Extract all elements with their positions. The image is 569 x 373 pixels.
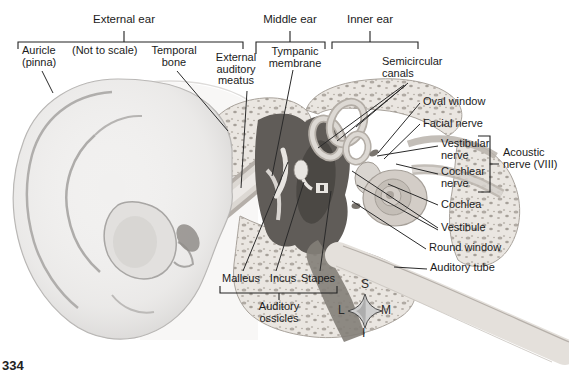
leader-oval-window <box>378 103 420 153</box>
leader-lines <box>42 70 438 271</box>
label-auditory-tube: Auditory tube <box>430 262 495 274</box>
label-acoustic-nerve: Acoustic nerve (VIII) <box>503 147 557 170</box>
leader-semicircular-canals <box>318 83 408 148</box>
leader-vestibular-nerve <box>377 146 438 156</box>
label-auditory-ossicles: Auditory ossicles <box>239 301 319 324</box>
compass-l-label: L <box>338 303 345 317</box>
leader-cochlear-nerve <box>396 164 438 174</box>
label-facial-nerve: Facial nerve <box>423 118 483 130</box>
header-inner-ear: Inner ear <box>330 14 410 26</box>
leader-auditory-tube <box>394 267 427 269</box>
page-number: 334 <box>2 358 24 373</box>
header-external-ear: External ear <box>84 14 164 26</box>
label-vestibular-nerve: Vestibular nerve <box>441 138 489 161</box>
compass-s-label: S <box>361 277 369 291</box>
leader-stapes <box>320 191 331 271</box>
leader-incus <box>276 182 304 271</box>
leader-auricle <box>42 71 53 93</box>
inner-ear-bracket <box>332 31 418 49</box>
compass-star-icon <box>348 294 382 328</box>
label-round-window: Round window <box>429 242 501 254</box>
label-cochlear-nerve: Cochlear nerve <box>441 166 485 189</box>
compass-m-label: M <box>381 303 391 317</box>
label-tympanic-membrane: Tympanic membrane <box>255 46 335 69</box>
auditory-ossicles-bracket <box>220 286 337 300</box>
label-semicircular-canals: Semicircular canals <box>382 56 443 79</box>
label-vestibule: Vestibule <box>441 222 486 234</box>
label-auricle: Auricle (pinna) <box>22 45 56 68</box>
leader-cochlea <box>388 184 438 205</box>
leader-external-auditory-meatus <box>241 91 247 188</box>
label-not-to-scale: (Not to scale) <box>72 45 137 57</box>
header-middle-ear: Middle ear <box>250 14 330 26</box>
label-stapes: Stapes <box>293 273 343 285</box>
label-oval-window: Oval window <box>423 96 485 108</box>
label-cochlea: Cochlea <box>441 199 481 211</box>
leader-vestibule <box>352 171 438 230</box>
leader-round-window <box>352 201 426 249</box>
compass-i-label: I <box>362 326 365 340</box>
